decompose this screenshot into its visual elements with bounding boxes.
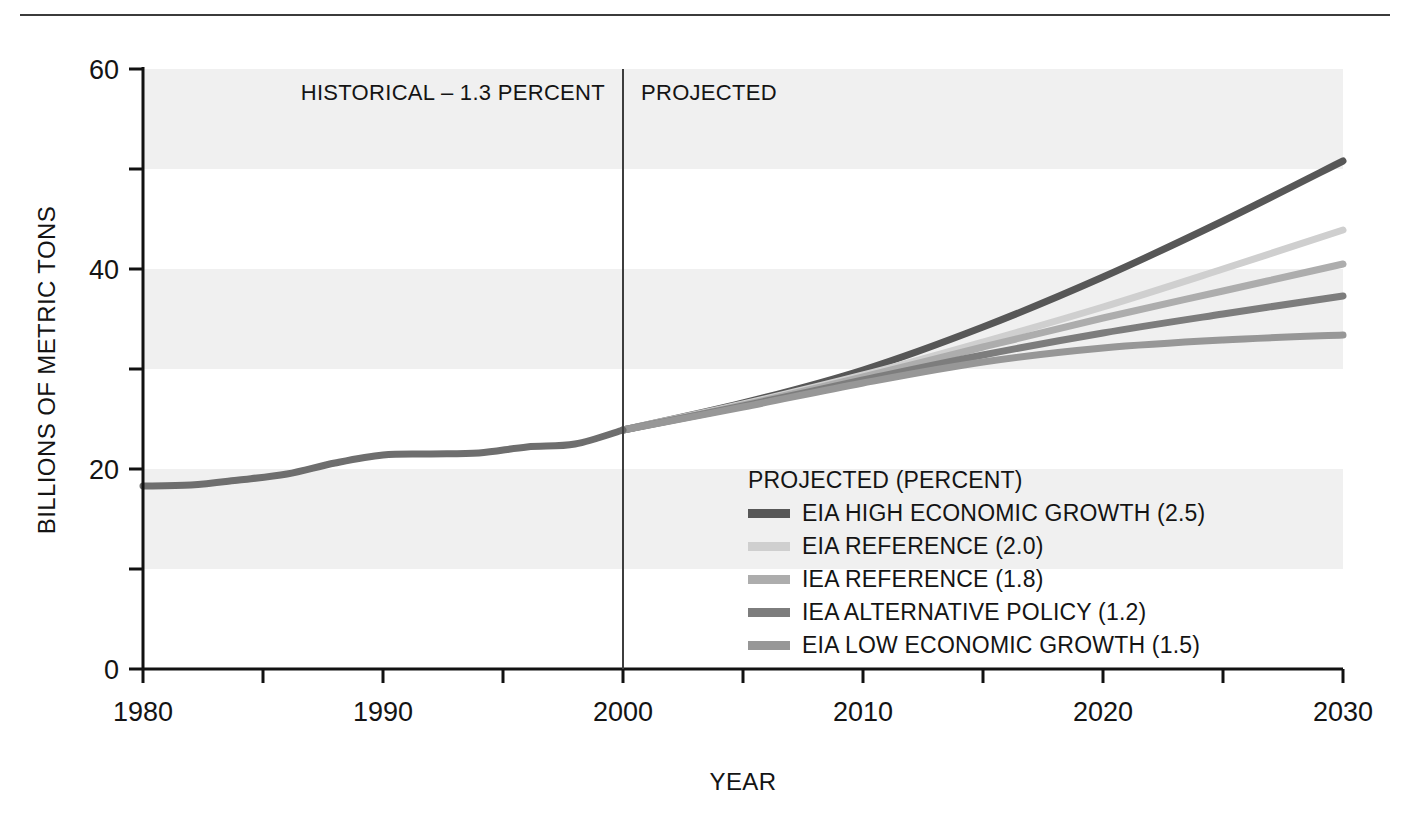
- y-tick-label: 0: [104, 655, 119, 685]
- x-axis-title: YEAR: [710, 768, 777, 795]
- projected-label: PROJECTED: [641, 80, 777, 105]
- legend-title: PROJECTED (PERCENT): [748, 467, 1023, 493]
- x-tick-label: 2030: [1313, 697, 1373, 727]
- legend-swatch: [748, 641, 790, 650]
- legend-swatch: [748, 509, 790, 518]
- legend-item[interactable]: EIA LOW ECONOMIC GROWTH (1.5): [748, 632, 1200, 658]
- legend-item-label: EIA HIGH ECONOMIC GROWTH (2.5): [802, 500, 1205, 526]
- x-tick-label: 2010: [833, 697, 893, 727]
- y-tick-label: 60: [89, 55, 119, 85]
- y-tick-label: 20: [89, 455, 119, 485]
- legend-item-label: IEA REFERENCE (1.8): [802, 566, 1044, 592]
- legend-item-label: EIA REFERENCE (2.0): [802, 533, 1044, 559]
- grid-band: [143, 269, 1343, 369]
- legend-item-label: IEA ALTERNATIVE POLICY (1.2): [802, 599, 1146, 625]
- x-tick-label: 1990: [353, 697, 413, 727]
- legend-item[interactable]: IEA REFERENCE (1.8): [748, 566, 1044, 592]
- plot-bands: [143, 69, 1343, 569]
- period-annotations: HISTORICAL – 1.3 PERCENTPROJECTED: [301, 80, 777, 105]
- legend-item[interactable]: EIA HIGH ECONOMIC GROWTH (2.5): [748, 500, 1205, 526]
- emissions-projection-chart: 6040200198019902000201020202030 HISTORIC…: [0, 0, 1404, 831]
- x-tick-label: 1980: [113, 697, 173, 727]
- legend-item-label: EIA LOW ECONOMIC GROWTH (1.5): [802, 632, 1200, 658]
- chart-page: 6040200198019902000201020202030 HISTORIC…: [0, 0, 1404, 831]
- legend-item[interactable]: IEA ALTERNATIVE POLICY (1.2): [748, 599, 1146, 625]
- y-tick-label: 40: [89, 255, 119, 285]
- x-tick-label: 2020: [1073, 697, 1133, 727]
- x-tick-label: 2000: [593, 697, 653, 727]
- legend-swatch: [748, 608, 790, 617]
- legend-swatch: [748, 575, 790, 584]
- historical-label: HISTORICAL – 1.3 PERCENT: [301, 80, 605, 105]
- legend-swatch: [748, 542, 790, 551]
- y-axis-title: BILLIONS OF METRIC TONS: [33, 206, 60, 534]
